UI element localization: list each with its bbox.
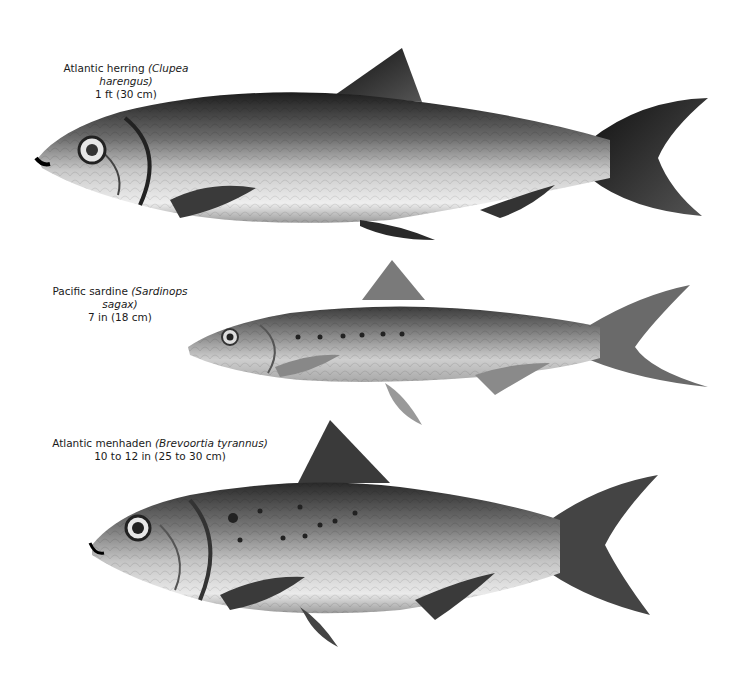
sardine-name-line: Pacific sardine (Sardinops sagax) <box>36 285 204 311</box>
sardine-caption: Pacific sardine (Sardinops sagax) 7 in (… <box>36 285 204 324</box>
atlantic-menhaden-illustration <box>80 415 660 655</box>
sardine-size: 7 in (18 cm) <box>36 311 204 324</box>
pacific-sardine-illustration <box>180 255 720 435</box>
atlantic-herring-illustration <box>30 40 720 250</box>
sardine-common-name: Pacific sardine <box>52 285 127 297</box>
